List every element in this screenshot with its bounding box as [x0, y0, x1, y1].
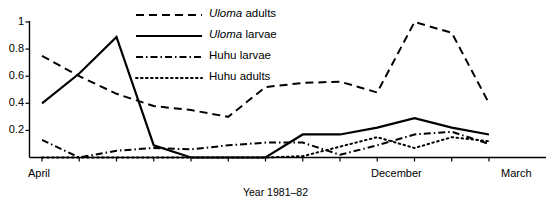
legend-swatch-dotted: [135, 69, 203, 87]
legend-swatch-solid: [135, 27, 203, 45]
legend-label-uloma-larvae: Uloma larvae: [209, 28, 277, 40]
legend-label-huhu-larvae: Huhu larvae: [209, 49, 271, 61]
series-line-huhu-adults: [42, 137, 489, 157]
data-series-group: [42, 22, 489, 158]
series-line-huhu-larvae: [42, 132, 489, 158]
legend-rest: Huhu larvae: [209, 49, 271, 61]
legend-label-huhu-adults: Huhu adults: [209, 70, 270, 82]
legend-genus-italic: Uloma: [209, 7, 242, 19]
legend-rest: adults: [242, 7, 276, 19]
legend-genus-italic: Uloma: [209, 28, 242, 40]
legend-swatch-dashdot: [135, 48, 203, 66]
legend-swatch-dashed: [135, 6, 203, 24]
legend-rest: larvae: [242, 28, 277, 40]
x-axis-caption: Year 1981–82: [0, 186, 551, 198]
legend-rest: Huhu adults: [209, 70, 270, 82]
legend-label-uloma-adults: Uloma adults: [209, 7, 276, 19]
line-chart-figure: 1 0.8 0.6 0.4 0.2 April December March U…: [0, 0, 551, 208]
